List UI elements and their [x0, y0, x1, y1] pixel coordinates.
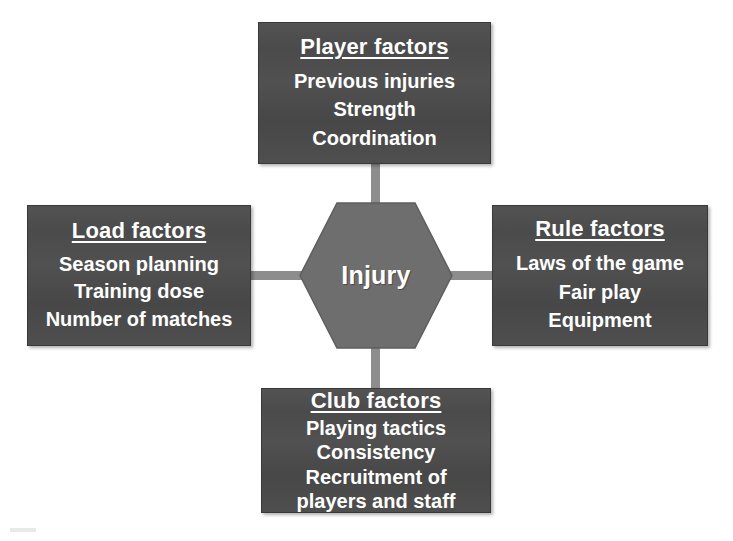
- factor-box-club-item: Consistency: [317, 440, 436, 464]
- factor-box-load-item: Training dose: [74, 278, 204, 306]
- connector-right: [447, 271, 495, 280]
- factor-box-club-item: Recruitment of: [305, 465, 446, 489]
- connector-top: [371, 160, 380, 206]
- factor-box-load-title: Load factors: [72, 218, 206, 244]
- factor-box-player-item: Strength: [333, 95, 415, 123]
- center-node-injury[interactable]: Injury: [299, 202, 453, 349]
- factor-box-rule-title: Rule factors: [535, 216, 665, 242]
- connector-bottom: [371, 345, 380, 391]
- factor-box-player[interactable]: Player factors Previous injuries Strengt…: [258, 22, 491, 164]
- factor-box-player-title: Player factors: [300, 34, 448, 60]
- scan-artifact: [10, 528, 36, 532]
- factor-box-load[interactable]: Load factors Season planning Training do…: [27, 205, 251, 346]
- factor-box-rule-item: Equipment: [548, 306, 651, 334]
- connector-left: [248, 271, 305, 280]
- factor-box-player-item: Coordination: [312, 124, 436, 152]
- factor-box-player-item: Previous injuries: [294, 67, 455, 95]
- factor-box-rule[interactable]: Rule factors Laws of the game Fair play …: [492, 205, 708, 346]
- factor-box-club-title: Club factors: [311, 388, 442, 414]
- center-node-label: Injury: [299, 202, 453, 349]
- factor-box-rule-item: Fair play: [559, 278, 641, 306]
- factor-box-club[interactable]: Club factors Playing tactics Consistency…: [261, 388, 491, 513]
- diagram-canvas: Player factors Previous injuries Strengt…: [0, 0, 733, 541]
- factor-box-load-item: Season planning: [59, 251, 219, 279]
- factor-box-load-item: Number of matches: [46, 306, 233, 334]
- factor-box-club-item: Playing tactics: [306, 416, 446, 440]
- factor-box-rule-item: Laws of the game: [516, 249, 684, 277]
- factor-box-club-item: players and staff: [297, 489, 456, 513]
